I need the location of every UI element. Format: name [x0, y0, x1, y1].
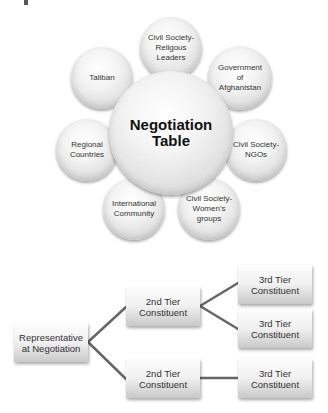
- negotiation-table-circle: Negotiation Table: [109, 71, 233, 195]
- tier3-box: 3rd Tier Constituent: [238, 265, 312, 304]
- representative-box: Representative at Negotiation: [14, 323, 88, 362]
- connector-tier2a-tier3a: [200, 283, 238, 306]
- tier3-box: 3rd Tier Constituent: [238, 309, 312, 348]
- tier2-box: 2nd Tier Constituent: [126, 287, 200, 326]
- tier3-box: 3rd Tier Constituent: [238, 359, 312, 398]
- tier2-box: 2nd Tier Constituent: [126, 359, 200, 398]
- connector-tier2a-tier3b: [200, 306, 238, 329]
- connector-root-tier2a: [88, 307, 126, 342]
- connector-root-tier2b: [88, 342, 126, 379]
